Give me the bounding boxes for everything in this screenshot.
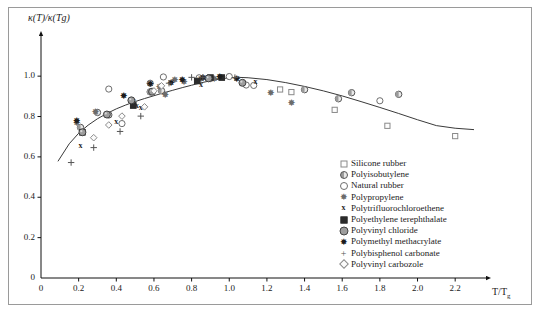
- x-tick-label: 1.4: [291, 283, 319, 293]
- legend-item-label: Polypropylene: [350, 192, 404, 203]
- y-tick-label: 1.0: [7, 70, 35, 80]
- svg-text:✸: ✸: [178, 74, 186, 85]
- x-tick-label: 0.8: [178, 283, 206, 293]
- x-tick-label: 1.0: [215, 283, 243, 293]
- legend-marker-icon: [337, 180, 350, 191]
- legend-marker-icon: ✸: [337, 236, 350, 247]
- x-tick-label: 2.2: [441, 283, 469, 293]
- legend-marker-icon: [337, 214, 350, 225]
- svg-text:✸: ✸: [233, 73, 241, 84]
- svg-text:✸: ✸: [216, 71, 224, 82]
- x-tick-label: 2.0: [404, 283, 432, 293]
- legend-item: xPolytrifluorochloroethene: [337, 203, 447, 214]
- svg-text:✸: ✸: [267, 87, 275, 98]
- legend-item-label: Natural rubber: [350, 180, 404, 191]
- y-tick-label: 0.6: [7, 151, 35, 161]
- plot-canvas: ✸✸✸✸✸✸✸✸✸✸✸xxxxxx✸✸✸✸✸✸✸✸: [0, 0, 540, 313]
- svg-text:x: x: [114, 117, 118, 126]
- svg-text:✸: ✸: [167, 77, 175, 88]
- x-tick-label: 0.6: [140, 283, 168, 293]
- svg-text:✸: ✸: [92, 106, 100, 117]
- x-tick-label: 0.4: [102, 283, 130, 293]
- svg-text:x: x: [79, 141, 83, 150]
- legend-item: ✸Polymethyl methacrylate: [337, 236, 447, 247]
- svg-text:✸: ✸: [287, 97, 295, 108]
- x-tick-label: 1.8: [366, 283, 394, 293]
- y-tick-label: 0: [7, 272, 35, 282]
- x-tick-label: 1.2: [253, 283, 281, 293]
- legend-item: +Polybisphenol carbonate: [337, 248, 447, 259]
- legend-marker-icon: [337, 225, 350, 236]
- series-silicone-rubber: [131, 87, 458, 139]
- legend-marker-icon: +: [337, 248, 350, 259]
- svg-text:x: x: [254, 77, 258, 86]
- x-tick-label: 0: [27, 283, 55, 293]
- svg-text:✸: ✸: [146, 78, 154, 89]
- y-tick-label: 0.4: [7, 191, 35, 201]
- legend-item: Polyisobutylene: [337, 169, 447, 180]
- legend-item-label: Polyethylene terephthalate: [350, 214, 447, 225]
- y-tick-label: 0.2: [7, 232, 35, 242]
- figure-page: κ(T)/κ(Tg) T/Tg ✸✸✸✸✸✸✸✸✸✸✸xxxxxx✸✸✸✸✸✸✸…: [0, 0, 540, 313]
- legend-item: Silicone rubber: [337, 158, 447, 169]
- legend-item: Natural rubber: [337, 180, 447, 191]
- legend: Silicone rubberPolyisobutyleneNatural ru…: [337, 158, 447, 270]
- legend-item-label: Silicone rubber: [350, 158, 406, 169]
- x-tick-label: 1.6: [328, 283, 356, 293]
- legend-marker-icon: ✸: [337, 192, 350, 203]
- legend-marker-icon: x: [337, 203, 350, 214]
- series-polymethyl-methacrylate: ✸✸✸✸✸✸✸✸: [73, 71, 241, 125]
- legend-item: Polyethylene terephthalate: [337, 214, 447, 225]
- legend-item-label: Polyisobutylene: [350, 169, 409, 180]
- svg-text:✸: ✸: [161, 89, 169, 100]
- x-tick-label: 0.2: [65, 283, 93, 293]
- legend-item: Polyvinyl chloride: [337, 225, 447, 236]
- svg-text:✸: ✸: [120, 90, 128, 101]
- legend-marker-icon: [337, 259, 350, 270]
- svg-text:✸: ✸: [73, 115, 81, 126]
- legend-item-label: Polyvinyl carbozole: [350, 259, 423, 270]
- legend-marker-icon: [337, 169, 350, 180]
- legend-item: Polyvinyl carbozole: [337, 259, 447, 270]
- legend-marker-icon: [337, 158, 350, 169]
- legend-item-label: Polytrifluorochloroethene: [350, 203, 444, 214]
- legend-item: ✸Polypropylene: [337, 192, 447, 203]
- legend-item-label: Polymethyl methacrylate: [350, 236, 441, 247]
- legend-item-label: Polybisphenol carbonate: [350, 248, 440, 259]
- y-tick-label: 0.8: [7, 111, 35, 121]
- legend-item-label: Polyvinyl chloride: [350, 225, 418, 236]
